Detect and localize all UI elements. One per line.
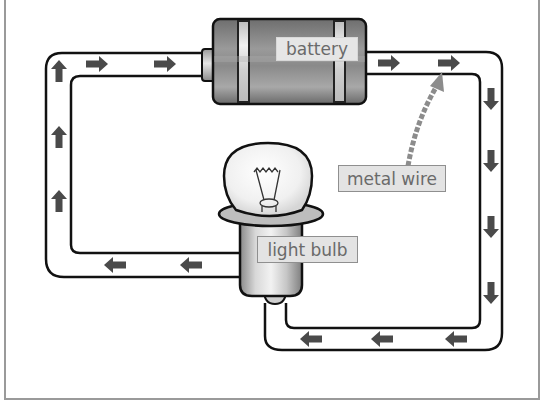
arrows-top-right (378, 55, 460, 71)
arrows-left-side (51, 60, 67, 212)
battery-label: battery (276, 37, 358, 61)
metal-wire-pointer (408, 72, 444, 166)
light-bulb-icon (219, 143, 323, 304)
light-bulb-label: light bulb (257, 236, 358, 263)
arrows-right-side (483, 88, 499, 304)
arrows-bottom (300, 331, 467, 347)
arrows-top-left (86, 56, 176, 72)
circuit-diagram (0, 0, 550, 418)
battery-icon (202, 19, 366, 104)
metal-wire-label: metal wire (338, 165, 446, 192)
arrows-lower-left (104, 257, 202, 273)
